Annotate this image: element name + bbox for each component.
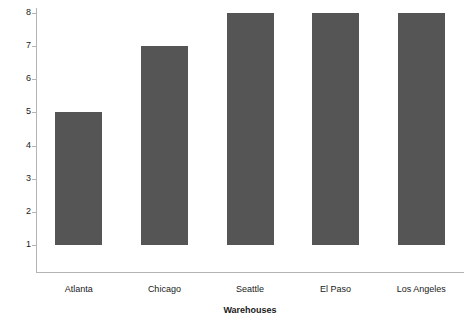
x-tick-label: Chicago <box>122 285 208 294</box>
y-tick-mark <box>32 13 36 14</box>
y-tick-mark <box>32 245 36 246</box>
x-tick-label: Los Angeles <box>378 285 464 294</box>
y-tick-mark <box>32 79 36 80</box>
bar-chart: 12345678 AtlantaChicagoSeattleEl PasoLos… <box>0 0 472 321</box>
y-tick-mark <box>32 146 36 147</box>
x-axis-title: Warehouses <box>36 305 464 315</box>
y-tick-mark <box>32 179 36 180</box>
x-axis-tick-labels: AtlantaChicagoSeattleEl PasoLos Angeles <box>0 0 472 321</box>
y-tick-mark <box>32 212 36 213</box>
y-tick-mark <box>32 46 36 47</box>
x-tick-label: Atlanta <box>36 285 122 294</box>
x-tick-label: El Paso <box>293 285 379 294</box>
y-tick-mark <box>32 112 36 113</box>
x-tick-label: Seattle <box>207 285 293 294</box>
